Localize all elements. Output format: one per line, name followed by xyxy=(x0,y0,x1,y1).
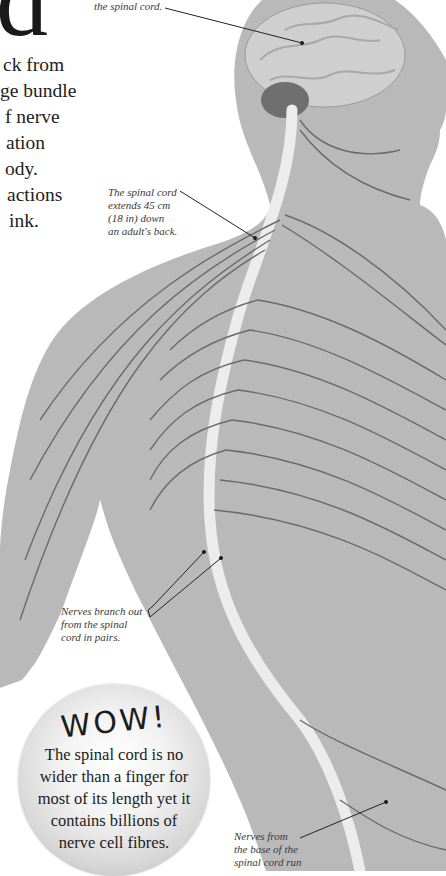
intro-line: ge bundle xyxy=(0,78,150,104)
caption-base-nerves: Nerves from the base of the spinal cord … xyxy=(234,830,301,869)
intro-line: ation xyxy=(6,130,150,156)
caption-line: extends 45 cm xyxy=(108,199,177,212)
wow-line: The spinal cord is no xyxy=(18,744,210,766)
caption-line: the base of the xyxy=(234,843,301,856)
wow-fact-bubble: WOW! The spinal cord is no wider than a … xyxy=(18,684,210,876)
caption-line: (18 in) down xyxy=(108,212,177,225)
caption-line: the spinal cord. xyxy=(94,0,162,13)
drop-cap-heading: d xyxy=(0,0,48,52)
caption-line: cord in pairs. xyxy=(61,631,142,644)
caption-line: spinal cord run xyxy=(234,856,301,869)
caption-line: Nerves branch out xyxy=(61,605,142,618)
caption-brain: the spinal cord. xyxy=(94,0,162,13)
intro-line: ody. xyxy=(5,156,150,182)
caption-line: an adult's back. xyxy=(108,225,177,238)
intro-line: ck from xyxy=(3,52,150,78)
wow-line: contains billions of xyxy=(18,810,210,832)
caption-nerve-pairs: Nerves branch out from the spinal cord i… xyxy=(61,605,142,644)
wow-line: most of its length yet it xyxy=(18,788,210,810)
wow-fact-text: The spinal cord is no wider than a finge… xyxy=(18,744,210,854)
wow-line: nerve cell fibres. xyxy=(18,832,210,854)
wow-line: wider than a finger for xyxy=(18,766,210,788)
caption-line: from the spinal xyxy=(61,618,142,631)
intro-line: f nerve xyxy=(5,104,150,130)
caption-line: Nerves from xyxy=(234,830,301,843)
caption-line: The spinal cord xyxy=(108,186,177,199)
caption-spinal-length: The spinal cord extends 45 cm (18 in) do… xyxy=(108,186,177,238)
